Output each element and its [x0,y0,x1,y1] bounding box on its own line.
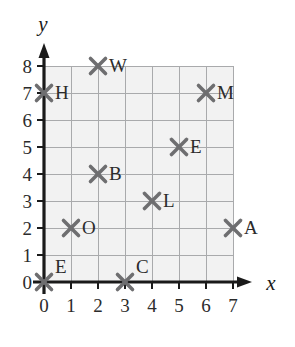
data-point-label: B [109,163,122,184]
x-axis-tick-label: 0 [39,295,49,316]
y-axis-arrow-icon [39,43,50,58]
x-axis-tick-label: 1 [66,295,76,316]
x-axis-tick-label: 4 [147,295,157,316]
data-point-label: H [55,82,69,103]
data-point-label: A [244,217,258,238]
y-axis-label: y [36,12,48,36]
data-point-label: M [217,82,234,103]
x-axis-arrow-icon [237,277,252,288]
x-axis-tick-label: 7 [228,295,238,316]
y-axis-tick-labels: 012345678 [23,56,33,293]
coordinate-plane-svg: 01234567 012345678 y x WHMEBLOAEC [0,0,295,347]
x-axis-tick-labels: 01234567 [39,295,238,316]
coordinate-plane-figure: 01234567 012345678 y x WHMEBLOAEC [0,0,295,347]
y-axis-tick-label: 5 [23,137,33,158]
x-axis-tick-label: 2 [93,295,103,316]
y-axis-tick-label: 4 [23,164,33,185]
y-axis-tick-label: 2 [23,218,33,239]
data-point-label: L [163,190,175,211]
x-axis-tick-label: 3 [120,295,130,316]
data-point-label: E [190,136,202,157]
y-axis-tick-label: 8 [23,56,33,77]
x-axis-tick-label: 5 [174,295,184,316]
y-axis-tick-label: 1 [23,245,33,266]
y-axis-tick-label: 7 [23,83,33,104]
y-axis-tick-label: 6 [23,110,33,131]
data-point-label: C [136,256,149,277]
data-point-label: W [109,55,127,76]
data-point-label: O [82,217,96,238]
x-axis-label: x [265,271,276,295]
y-axis-tick-label: 0 [23,272,33,293]
data-point-label: E [55,256,67,277]
y-axis-tick-label: 3 [23,191,33,212]
x-axis-tick-label: 6 [201,295,211,316]
